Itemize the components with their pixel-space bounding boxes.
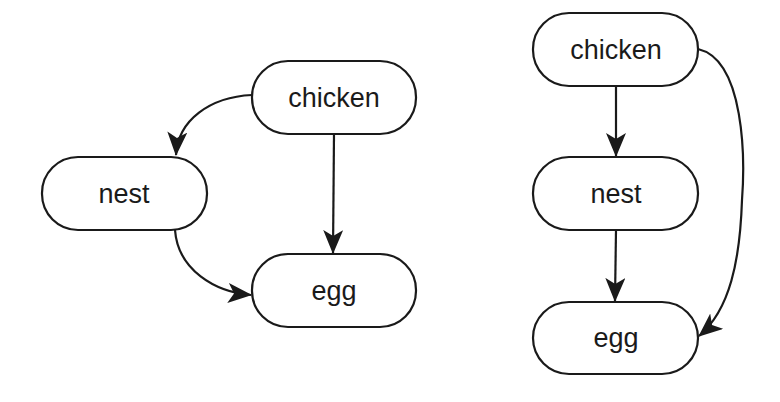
node-label: egg bbox=[593, 323, 638, 353]
node-label: chicken bbox=[570, 35, 662, 65]
node-label: nest bbox=[590, 179, 642, 209]
node-egg: egg bbox=[252, 254, 416, 327]
edge-chicken-to-nest bbox=[176, 95, 252, 155]
node-label: nest bbox=[98, 179, 150, 209]
node-chicken: chicken bbox=[252, 61, 416, 134]
edge-nest-to-egg bbox=[175, 230, 251, 295]
node-egg: egg bbox=[533, 302, 698, 374]
left-graph: chicken nest egg bbox=[42, 61, 416, 327]
right-graph: chicken nest egg bbox=[533, 13, 743, 374]
node-chicken: chicken bbox=[533, 13, 698, 86]
edge-chicken-to-egg bbox=[698, 49, 743, 336]
diagram-canvas: chicken nest egg chicken nest egg bbox=[0, 0, 780, 402]
node-label: egg bbox=[311, 276, 356, 306]
edge-nest-to-egg bbox=[615, 230, 616, 301]
node-nest: nest bbox=[533, 157, 698, 230]
node-label: chicken bbox=[288, 83, 380, 113]
node-nest: nest bbox=[42, 157, 207, 230]
edge-chicken-to-egg bbox=[333, 134, 334, 253]
